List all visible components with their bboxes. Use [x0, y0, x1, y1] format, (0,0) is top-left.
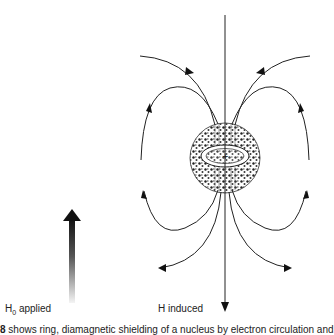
- applied-field-arrow: [63, 209, 81, 303]
- figure-caption: 8 shows ring, diamagnetic shielding of a…: [0, 324, 334, 335]
- applied-field-label: H0 applied: [5, 303, 51, 316]
- induced-field-label: H induced: [158, 303, 203, 314]
- field-lines: [140, 15, 310, 312]
